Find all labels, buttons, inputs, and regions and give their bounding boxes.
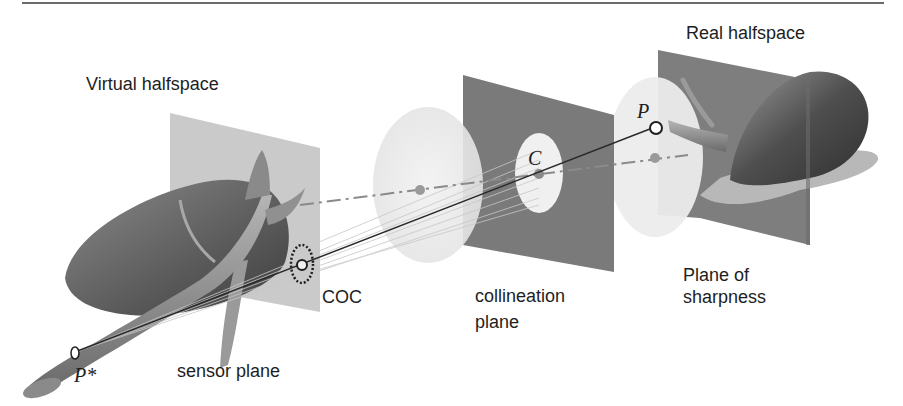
point-c-label: C: [528, 148, 541, 168]
point-p-star: [71, 347, 79, 359]
collineation-plane-label-line2: plane: [475, 311, 519, 333]
collineation-plane-label-line1: collineation: [475, 285, 565, 307]
plane-of-sharpness-label-line1: Plane of: [683, 264, 749, 286]
plane-of-sharpness-label-line2: sharpness: [683, 286, 766, 308]
diagram-canvas: [0, 0, 903, 406]
point-p-label: P: [637, 101, 649, 121]
left-cone: [373, 107, 483, 263]
coc-label: COC: [322, 286, 362, 308]
sensor-plane-label: sensor plane: [177, 360, 280, 382]
real-halfspace-label: Real halfspace: [686, 22, 805, 44]
virtual-halfspace-label: Virtual halfspace: [86, 73, 219, 95]
point-p: [650, 122, 662, 134]
point-p-star-label: P*: [74, 365, 96, 385]
axis-point-left: [415, 185, 425, 195]
axis-point-right: [650, 153, 660, 163]
